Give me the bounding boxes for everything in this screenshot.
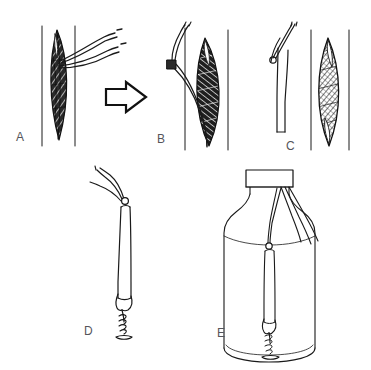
panel-b-suture-1	[172, 25, 185, 60]
panel-a-suture-upper	[58, 33, 115, 62]
panel-e-hook-left	[263, 319, 270, 334]
panel-e-group	[224, 170, 318, 362]
panel-d-coil	[119, 315, 126, 334]
panel-c-suture-tip-2	[296, 22, 297, 26]
panel-d-knot	[122, 198, 129, 205]
panel-b-group	[167, 22, 228, 150]
panel-a-group	[42, 26, 126, 146]
panel-c-tube-left	[277, 48, 278, 132]
panel-e-knot	[266, 243, 272, 249]
panel-a-suture-tip-1	[117, 29, 122, 30]
panel-b-tube-end-block	[167, 60, 176, 69]
bottle-cap	[246, 170, 293, 187]
panel-label-d: D	[84, 325, 93, 337]
panel-d-suture-tip	[95, 166, 96, 170]
panel-a-suture-lower-b	[58, 52, 119, 68]
panel-e-coil-base	[262, 356, 279, 360]
panel-d-suture-3	[90, 182, 121, 201]
panel-d-group	[90, 166, 132, 339]
panel-label-e: E	[217, 327, 226, 339]
figure-line-art	[0, 0, 371, 370]
panel-e-tube-bottom	[264, 322, 275, 324]
panel-d-coil-base	[116, 336, 132, 340]
panel-a-suture-tip-2	[121, 43, 126, 44]
panel-e-suture-inner-1	[268, 188, 277, 243]
panel-d-tube-left	[118, 207, 121, 298]
panel-label-b: B	[157, 133, 166, 145]
panel-a-suture-lower	[58, 47, 118, 66]
panel-e-tube-left	[264, 251, 265, 322]
panel-d-tube-bottom	[118, 298, 131, 300]
bottle-body-left	[224, 194, 250, 348]
panel-c-group	[270, 22, 349, 150]
panel-e-suture-over-neck-3	[289, 187, 318, 241]
panel-e-tube-right	[274, 251, 275, 322]
panel-c-suture-1	[273, 24, 292, 58]
transition-arrow	[106, 82, 146, 112]
panel-e-tube-top	[265, 250, 274, 252]
panel-c-tube-right	[285, 50, 288, 132]
panel-label-c: C	[286, 140, 295, 152]
panel-label-a: A	[16, 131, 25, 143]
panel-e-coil	[265, 335, 272, 354]
panel-d-tube-top	[121, 206, 130, 208]
panel-d-hook-left	[116, 294, 122, 310]
panel-d-tube-right	[130, 207, 131, 298]
panel-b-suture-tip-2	[189, 22, 191, 26]
figure-container: A B C D E	[0, 0, 371, 370]
